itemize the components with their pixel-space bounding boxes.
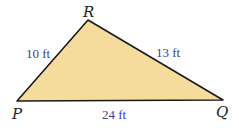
side-label-rq: 13 ft bbox=[156, 45, 181, 60]
vertex-label-q: Q bbox=[216, 103, 228, 121]
vertex-label-p: P bbox=[11, 105, 23, 123]
side-label-pq: 24 ft bbox=[102, 107, 127, 122]
side-label-pr: 10 ft bbox=[26, 46, 51, 61]
triangle-diagram: R P Q 10 ft 13 ft 24 ft bbox=[0, 0, 239, 128]
vertex-label-r: R bbox=[82, 3, 94, 21]
